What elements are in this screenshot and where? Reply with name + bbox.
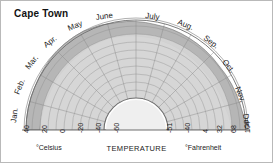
celsius-tick-2: 0 <box>59 129 66 133</box>
fahrenheit-tick-3: 32 <box>216 125 223 133</box>
fahrenheit-tick-1: -40 <box>184 123 191 133</box>
month-label-jan: Jan. <box>9 107 20 123</box>
fahrenheit-tick-0: -51 <box>166 123 173 133</box>
fahrenheit-tick-4: 68 <box>230 125 237 133</box>
fahrenheit-tick-2: 4 <box>202 129 209 133</box>
month-label-feb: Feb. <box>13 78 27 96</box>
celsius-tick-1: 20 <box>41 125 48 133</box>
month-label-june: June <box>95 11 114 22</box>
month-label-apr: Apr. <box>42 34 59 50</box>
radial-temperature-chart: Jan. Feb. Mar. Apr. May June July Aug. S… <box>0 0 273 163</box>
celsius-tick-5: -60 <box>113 123 120 133</box>
temperature-axis-name: TEMPERATURE <box>0 144 273 153</box>
month-label-may: May <box>66 19 83 33</box>
celsius-tick-0: 40 <box>23 125 30 133</box>
celsius-tick-4: -40 <box>95 123 102 133</box>
fahrenheit-axis-name: °Fahrenheit <box>185 144 221 151</box>
fahrenheit-tick-5: 104 <box>244 121 251 133</box>
month-label-mar: Mar. <box>23 53 40 71</box>
celsius-tick-3: -20 <box>77 123 84 133</box>
month-label-july: July <box>145 11 160 22</box>
